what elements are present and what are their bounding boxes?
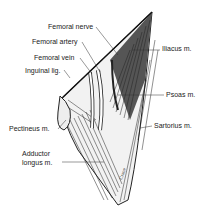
femoral-triangle-illustration: Crane	[0, 0, 208, 213]
label-adductor-line1: Adductor	[22, 150, 50, 158]
label-psoas: Psoas m.	[166, 91, 195, 99]
anatomy-figure: Crane Femoral nerve Femoral artery Femor…	[0, 0, 208, 213]
label-inguinal-lig: Inguinal lig.	[25, 67, 60, 75]
label-adductor-line2: longus m.	[22, 159, 52, 167]
label-femoral-artery: Femoral artery	[32, 38, 78, 46]
label-sartorius: Sartorius m.	[154, 122, 192, 130]
label-femoral-nerve: Femoral nerve	[48, 23, 93, 31]
label-pectineus: Pectineus m.	[9, 125, 49, 133]
label-femoral-vein: Femoral vein	[34, 54, 74, 62]
label-iliacus: Iliacus m.	[162, 45, 192, 53]
